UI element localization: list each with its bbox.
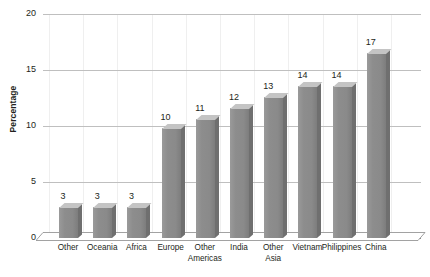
bar-other[interactable]: 3 — [53, 14, 87, 238]
bar-china[interactable]: 17 — [361, 14, 395, 238]
x-axis-tick-labels: OtherOceaniaAfricaEuropeOtherAmericasInd… — [43, 243, 430, 273]
bar-series: 33310111213141417 — [43, 14, 421, 238]
bar-vietnam[interactable]: 14 — [292, 14, 326, 238]
bar-india[interactable]: 12 — [224, 14, 258, 238]
y-tick-label-5: 5 — [10, 177, 36, 186]
bar-oceania[interactable]: 3 — [87, 14, 121, 238]
bar-philippines[interactable]: 14 — [327, 14, 361, 238]
bar-europe[interactable]: 10 — [156, 14, 190, 238]
bar-africa[interactable]: 3 — [121, 14, 155, 238]
bar-value-label: 17 — [354, 37, 388, 47]
bar-front-face — [162, 128, 181, 238]
y-tick-label-15: 15 — [10, 65, 36, 74]
bar-side-face — [352, 82, 356, 238]
bar-side-face — [386, 50, 390, 238]
x-label-line-1: China — [351, 243, 401, 254]
bar-value-label: 13 — [251, 81, 285, 91]
bar-side-face — [181, 125, 185, 238]
bar-front-face — [93, 207, 112, 238]
bar-front-face — [196, 119, 215, 238]
bar-front-face — [298, 86, 317, 238]
bar-value-label: 14 — [285, 70, 319, 80]
x-label-line-2: Asia — [248, 254, 298, 265]
bar-other-asia[interactable]: 13 — [258, 14, 292, 238]
bar-value-label: 3 — [80, 191, 114, 201]
y-tick-label-20: 20 — [10, 9, 36, 18]
x-label-line-2: Americas — [180, 254, 230, 265]
bar-front-face — [367, 53, 386, 238]
bar-value-label: 11 — [183, 103, 217, 113]
bar-side-face — [215, 116, 219, 238]
bar-side-face — [146, 203, 150, 238]
bar-front-face — [264, 97, 283, 238]
bar-side-face — [249, 104, 253, 238]
bar-value-label: 12 — [217, 92, 251, 102]
bar-front-face — [230, 108, 249, 238]
y-tick-label-10: 10 — [10, 121, 36, 130]
bar-value-label: 10 — [149, 112, 183, 122]
bar-value-label: 3 — [46, 191, 80, 201]
bar-other-americas[interactable]: 11 — [190, 14, 224, 238]
bar-front-face — [59, 207, 78, 238]
bar-side-face — [317, 82, 321, 238]
bar-value-label: 14 — [320, 70, 354, 80]
bar-front-face — [127, 207, 146, 238]
bar-front-face — [333, 86, 352, 238]
gridline-0 — [43, 238, 421, 239]
y-tick-label-0: 0 — [10, 233, 36, 242]
bar-side-face — [112, 204, 116, 238]
bar-value-label: 3 — [114, 191, 148, 201]
bar-chart: Percentage 05101520 33310111213141417 Ot… — [0, 0, 430, 277]
bar-side-face — [283, 93, 287, 238]
bar-side-face — [78, 204, 82, 238]
y-axis-title: Percentage — [8, 74, 18, 144]
x-tick-label-china: China — [351, 243, 401, 254]
